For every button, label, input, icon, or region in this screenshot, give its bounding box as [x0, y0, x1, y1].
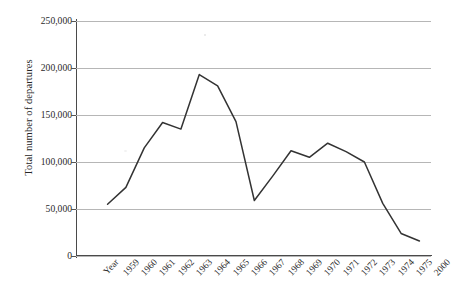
x-axis-tick-label: 1963: [194, 257, 214, 278]
x-axis-tick-labels: Year195919601961196219631964196519661967…: [76, 257, 432, 299]
x-axis-tick-label: Year: [102, 257, 121, 276]
x-axis-tick-label: 1971: [341, 257, 361, 278]
y-axis-tick-mark: [71, 209, 76, 210]
x-axis-tick-label: 1964: [212, 257, 232, 278]
x-axis-tick-label: 1966: [249, 257, 269, 278]
y-axis-tick-label: 100,000: [28, 157, 72, 167]
y-axis-tick-mark: [71, 256, 76, 257]
y-axis-tick-labels: 050,000100,000150,000200,000250,000: [26, 0, 72, 299]
y-axis-tick-label: 150,000: [28, 110, 72, 120]
x-axis-tick-label: 1961: [157, 257, 177, 278]
x-axis-tick-label: 2000: [432, 257, 452, 278]
y-axis-tick-mark: [71, 162, 76, 163]
x-axis-tick-label: 1968: [286, 257, 306, 278]
scan-speckle: [204, 34, 206, 36]
y-axis-tick-label: 200,000: [28, 63, 72, 73]
x-axis-tick-label: 1965: [231, 257, 251, 278]
x-axis-tick-label: 1975: [414, 257, 434, 278]
y-axis-tick-label: 250,000: [28, 16, 72, 26]
scan-speckle: [124, 150, 127, 152]
x-axis-tick-label: 1974: [396, 257, 416, 278]
plot-area: [76, 21, 431, 256]
x-axis-tick-label: 1973: [377, 257, 397, 278]
x-axis-tick-label: 1959: [121, 257, 141, 278]
x-axis-tick-label: 1967: [267, 257, 287, 278]
y-axis-tick-mark: [71, 68, 76, 69]
x-axis-tick-label: 1960: [139, 257, 159, 278]
x-axis-tick-label: 1962: [176, 257, 196, 278]
x-axis-tick-label: 1969: [304, 257, 324, 278]
y-axis-tick-label: 50,000: [28, 204, 72, 214]
y-axis-tick-mark: [71, 21, 76, 22]
x-axis-tick-label: 1970: [322, 257, 342, 278]
y-axis-tick-label: 0: [28, 251, 72, 261]
y-axis-tick-mark: [71, 115, 76, 116]
series-line: [76, 21, 431, 256]
x-axis-tick-label: 1972: [359, 257, 379, 278]
